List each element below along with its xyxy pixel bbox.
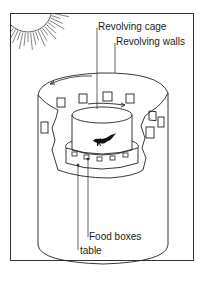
revolving-cage xyxy=(72,107,132,155)
bird-icon xyxy=(90,133,116,146)
sun-icon xyxy=(0,0,70,50)
label-revolving-cage: Revolving cage xyxy=(98,22,166,32)
label-food-boxes: Food boxes xyxy=(89,232,141,242)
label-table: table xyxy=(80,246,102,256)
label-revolving-walls: Revolving walls xyxy=(116,37,185,47)
